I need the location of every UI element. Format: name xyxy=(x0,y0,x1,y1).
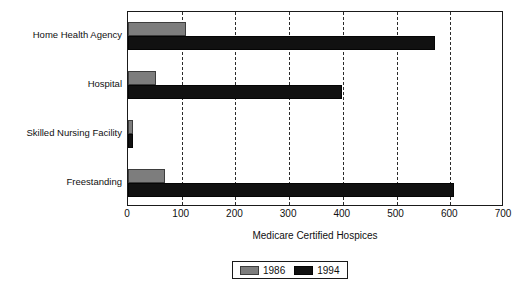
bar-1994-home-health-agency xyxy=(128,36,435,50)
category-label-hospital: Hospital xyxy=(0,78,122,89)
x-tick-label-700: 700 xyxy=(495,208,512,219)
legend-swatch-1986-icon xyxy=(240,266,259,275)
category-label-skilled-nursing-facility: Skilled Nursing Facility xyxy=(0,127,122,138)
bar-1986-freestanding xyxy=(128,169,165,183)
bar-1986-hospital xyxy=(128,71,156,85)
x-tick-label-600: 600 xyxy=(441,208,458,219)
bar-1994-freestanding xyxy=(128,183,454,197)
legend-entry-1994: 1994 xyxy=(294,265,339,276)
x-tick-label-300: 300 xyxy=(280,208,297,219)
bar-1994-hospital xyxy=(128,85,342,99)
bar-1986-home-health-agency xyxy=(128,22,186,36)
x-tick-label-500: 500 xyxy=(387,208,404,219)
x-tick-label-0: 0 xyxy=(124,208,130,219)
legend-label-1994: 1994 xyxy=(317,265,339,276)
legend-entry-1986: 1986 xyxy=(240,265,285,276)
x-tick-label-400: 400 xyxy=(334,208,351,219)
x-tick-label-100: 100 xyxy=(172,208,189,219)
bars-layer xyxy=(128,12,502,205)
legend-swatch-1994-icon xyxy=(294,266,313,275)
x-tick-label-200: 200 xyxy=(226,208,243,219)
plot-area xyxy=(127,11,503,206)
legend-label-1986: 1986 xyxy=(263,265,285,276)
bar-1994-skilled-nursing-facility xyxy=(128,134,133,148)
x-axis-title: Medicare Certified Hospices xyxy=(127,230,503,241)
category-label-home-health-agency: Home Health Agency xyxy=(0,29,122,40)
chart-legend: 1986 1994 xyxy=(232,261,348,279)
chart-figure: Home Health Agency Hospital Skilled Nurs… xyxy=(0,0,521,288)
x-axis-tick-labels: 0100200300400500600700 xyxy=(127,208,503,222)
category-axis-labels: Home Health Agency Hospital Skilled Nurs… xyxy=(0,11,122,206)
bar-1986-skilled-nursing-facility xyxy=(128,120,133,134)
category-label-freestanding: Freestanding xyxy=(0,176,122,187)
